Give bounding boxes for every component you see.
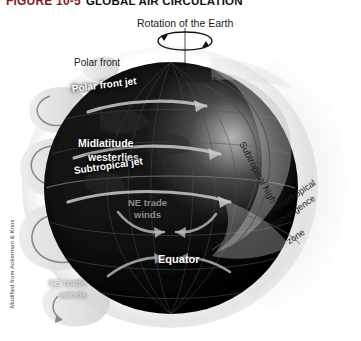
label-ne-trade-winds-line1: NE trade	[128, 198, 167, 208]
label-se-trade-winds-line1: SE trade	[48, 278, 87, 288]
label-midlatitude-westerlies-line1: Midlatitude	[78, 138, 133, 149]
label-equator: Equator	[158, 254, 200, 266]
wind-band-overlay	[0, 0, 361, 341]
label-se-trade-winds-line2: winds	[60, 290, 87, 300]
label-polar-front: Polar front	[74, 58, 120, 69]
label-ne-trade-winds-line2: winds	[134, 210, 161, 220]
globe-stage: Polar front Polar easterlies Polar front…	[0, 0, 361, 341]
label-polar-easterlies-line2: easterlies	[176, 74, 217, 84]
figure-container: FIGURE 10-5GLOBAL AIR CIRCULATION Modifi…	[0, 0, 361, 341]
